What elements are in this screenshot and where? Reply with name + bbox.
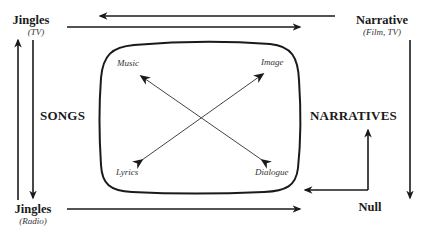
node-narrative: Narrative (Film, TV) — [345, 14, 419, 37]
node-jingles-radio-subtitle: (Radio) — [6, 216, 60, 226]
label-image: Image — [261, 57, 284, 67]
node-jingles-radio-title: Jingles — [6, 203, 60, 216]
category-narratives: NARRATIVES — [310, 108, 397, 124]
label-music: Music — [117, 58, 139, 68]
node-narrative-title: Narrative — [345, 14, 419, 27]
category-songs: SONGS — [40, 108, 85, 124]
node-jingles-tv-title: Jingles — [4, 14, 58, 27]
node-jingles-tv: Jingles (TV) — [4, 14, 58, 37]
node-null-title: Null — [352, 201, 388, 214]
node-jingles-radio: Jingles (Radio) — [6, 203, 60, 226]
node-null: Null — [352, 201, 388, 214]
node-jingles-tv-subtitle: (TV) — [14, 27, 58, 37]
label-lyrics: Lyrics — [116, 167, 138, 177]
label-dialogue: Dialogue — [255, 167, 289, 177]
node-narrative-subtitle: (Film, TV) — [345, 27, 419, 37]
arrow-lyrics-to-image — [142, 74, 263, 160]
